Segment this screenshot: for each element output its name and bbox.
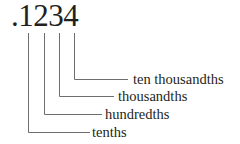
- label-thousandths: thousandths: [118, 88, 187, 104]
- label-tenths: tenths: [92, 124, 127, 140]
- leader-line-ten-thousandths: [75, 33, 129, 80]
- label-hundredths: hundredths: [105, 106, 169, 122]
- leader-line-thousandths: [60, 33, 115, 97]
- label-ten-thousandths: ten thousandths: [133, 71, 224, 87]
- leader-line-hundredths: [45, 33, 103, 115]
